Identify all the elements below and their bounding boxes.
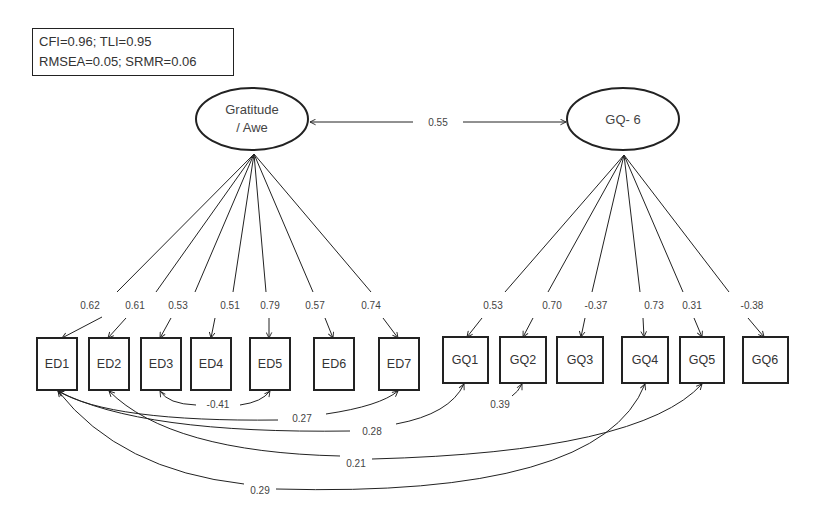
indicator-ED2: ED2 — [89, 338, 129, 390]
latent-label: GQ- 6 — [605, 112, 640, 127]
svg-text:GQ2: GQ2 — [510, 353, 536, 367]
latent-label-line1: Gratitude — [225, 102, 278, 117]
svg-text:0.61: 0.61 — [125, 300, 145, 311]
svg-text:0.62: 0.62 — [80, 300, 100, 311]
svg-text:-0.41: -0.41 — [207, 399, 230, 410]
svg-text:GQ1: GQ1 — [452, 353, 478, 367]
sem-path-diagram: Gratitude / Awe GQ- 6 0.55 0.62 0.61 0.5… — [0, 0, 818, 520]
indicator-ED1: ED1 — [37, 338, 77, 390]
indicator-GQ6: GQ6 — [743, 337, 788, 383]
svg-text:ED1: ED1 — [45, 357, 69, 371]
latent-gq6: GQ- 6 — [567, 88, 679, 150]
indicator-ED5: ED5 — [250, 338, 290, 390]
indicator-GQ1: GQ1 — [443, 337, 488, 383]
indicator-GQ5: GQ5 — [680, 337, 724, 383]
svg-text:0.27: 0.27 — [292, 413, 312, 424]
svg-text:GQ5: GQ5 — [689, 353, 715, 367]
svg-text:GQ6: GQ6 — [752, 353, 778, 367]
svg-text:ED2: ED2 — [97, 357, 121, 371]
latent-gratitude-awe: Gratitude / Awe — [196, 88, 308, 150]
gq-loadings — [467, 155, 764, 337]
gq-loading-labels: 0.53 0.70 -0.37 0.73 0.31 -0.38 — [483, 300, 764, 311]
svg-text:0.53: 0.53 — [168, 300, 188, 311]
indicator-GQ2: GQ2 — [500, 337, 546, 383]
indicator-GQ3: GQ3 — [557, 337, 603, 383]
svg-text:-0.37: -0.37 — [585, 300, 608, 311]
svg-text:0.21: 0.21 — [346, 458, 366, 469]
svg-text:0.28: 0.28 — [362, 426, 382, 437]
svg-text:0.70: 0.70 — [542, 300, 562, 311]
gq-indicator-boxes: GQ1 GQ2 GQ3 GQ4 GQ5 GQ6 — [443, 337, 788, 383]
indicator-ED7: ED7 — [379, 338, 419, 390]
svg-text:GQ3: GQ3 — [567, 353, 593, 367]
indicator-GQ4: GQ4 — [622, 337, 668, 383]
indicator-ED6: ED6 — [314, 338, 354, 390]
svg-text:0.79: 0.79 — [260, 300, 280, 311]
svg-text:-0.38: -0.38 — [741, 300, 764, 311]
latent-correlation-arrow: 0.55 — [310, 117, 566, 128]
svg-text:0.73: 0.73 — [644, 300, 664, 311]
svg-text:0.57: 0.57 — [305, 300, 325, 311]
svg-text:ED5: ED5 — [258, 357, 282, 371]
svg-text:ED6: ED6 — [322, 357, 346, 371]
latent-correlation-label: 0.55 — [428, 117, 448, 128]
svg-text:0.39: 0.39 — [490, 399, 510, 410]
svg-text:0.31: 0.31 — [682, 300, 702, 311]
svg-text:0.53: 0.53 — [483, 300, 503, 311]
latent-label-line2: / Awe — [236, 120, 268, 135]
svg-text:0.51: 0.51 — [220, 300, 240, 311]
svg-text:0.29: 0.29 — [250, 485, 270, 496]
indicator-ED4: ED4 — [191, 338, 231, 390]
svg-text:GQ4: GQ4 — [632, 353, 658, 367]
indicator-ED3: ED3 — [141, 338, 181, 390]
ed-indicator-boxes: ED1 ED2 ED3 ED4 ED5 ED6 ED7 — [37, 338, 419, 390]
residual-covariance-labels: -0.41 0.27 0.28 0.39 0.21 0.29 — [207, 399, 511, 496]
svg-text:ED7: ED7 — [387, 357, 411, 371]
svg-text:0.74: 0.74 — [361, 300, 381, 311]
svg-text:ED3: ED3 — [149, 357, 173, 371]
svg-text:ED4: ED4 — [199, 357, 223, 371]
ed-loading-labels: 0.62 0.61 0.53 0.51 0.79 0.57 0.74 — [80, 300, 381, 311]
